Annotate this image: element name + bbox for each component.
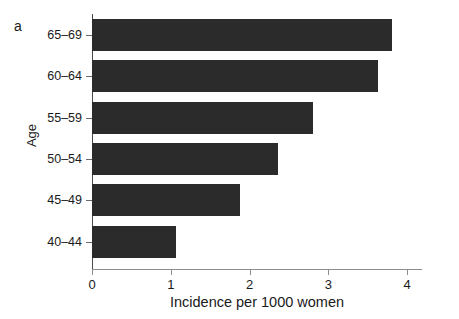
plot-area [92, 14, 422, 270]
figure-panel-a: a Age 65–6960–6455–5950–5445–4940–44 012… [0, 0, 459, 319]
bar [92, 184, 240, 216]
x-tick-label: 2 [235, 277, 265, 292]
y-tick-labels: 65–6960–6455–5950–5445–4940–44 [34, 0, 82, 319]
y-tick-mark [86, 76, 92, 77]
x-tick-label: 0 [77, 277, 107, 292]
x-tick-label: 3 [313, 277, 343, 292]
y-tick-mark [86, 242, 92, 243]
y-tick-label: 55–59 [34, 111, 82, 125]
x-tick-mark [328, 269, 329, 275]
x-tick-mark [250, 269, 251, 275]
y-tick-label: 65–69 [34, 28, 82, 42]
x-tick-mark [92, 269, 93, 275]
y-tick-mark [86, 35, 92, 36]
y-tick-mark [86, 200, 92, 201]
bar [92, 19, 392, 51]
bar [92, 102, 313, 134]
bar [92, 226, 176, 258]
x-tick-mark [171, 269, 172, 275]
bar [92, 60, 378, 92]
y-tick-mark [86, 118, 92, 119]
y-tick-mark [86, 159, 92, 160]
y-tick-label: 40–44 [34, 235, 82, 249]
y-tick-label: 60–64 [34, 69, 82, 83]
bar [92, 143, 278, 175]
x-tick-label: 4 [392, 277, 422, 292]
y-tick-label: 45–49 [34, 193, 82, 207]
x-axis-title: Incidence per 1000 women [92, 294, 422, 311]
x-tick-mark [407, 269, 408, 275]
x-tick-label: 1 [156, 277, 186, 292]
panel-label: a [14, 18, 22, 34]
y-tick-label: 50–54 [34, 152, 82, 166]
